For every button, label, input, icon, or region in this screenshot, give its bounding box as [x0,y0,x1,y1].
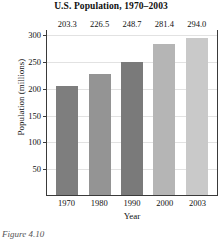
bar [153,44,175,195]
bar [121,62,143,195]
figure-caption: Figure 4.10 [2,229,44,239]
plot-area: 50100150200250300 203.3226.5248.7281.429… [46,30,218,196]
x-axis-tick-label: 1980 [88,198,110,212]
x-axis-tick-label: 2000 [154,198,176,212]
x-axis-tick-label: 2003 [187,198,209,212]
bar-value-label: 281.4 [155,19,174,29]
bar-group: 248.7 [121,30,143,195]
y-axis-tick-label: 150 [28,111,41,121]
population-bar-chart-figure: U.S. Population, 1970–2003 Population (m… [0,0,222,241]
y-axis-tick-label: 200 [28,84,41,94]
bar-group: 226.5 [89,30,111,195]
bar-group: 203.3 [56,30,78,195]
y-axis-tick-label: 300 [28,30,41,40]
x-axis-tick-labels: 19701980199020002003 [46,198,218,212]
bar-value-label: 294.0 [187,19,206,29]
bar [89,74,111,195]
plot-wrapper: Population (millions) 50100150200250300 … [0,22,222,202]
bar [186,38,208,195]
y-axis-tick-label: 250 [28,57,41,67]
chart-title: U.S. Population, 1970–2003 [0,1,222,11]
bar-group: 281.4 [153,30,175,195]
y-axis-tick-label: 50 [33,164,42,174]
bar-group: 294.0 [186,30,208,195]
x-axis-tick-label: 1990 [121,198,143,212]
y-axis-title: Population (millions) [16,22,26,172]
bar [56,86,78,195]
y-axis-tick-label: 100 [28,137,41,147]
bar-value-label: 226.5 [90,19,109,29]
bar-value-label: 248.7 [122,19,141,29]
x-axis-title: Year [46,211,218,221]
bars-group: 203.3226.5248.7281.4294.0 [47,30,217,195]
bar-value-label: 203.3 [58,19,77,29]
x-axis-tick-label: 1970 [55,198,77,212]
